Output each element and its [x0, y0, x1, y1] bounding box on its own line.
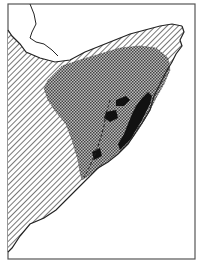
distribution-map — [0, 0, 198, 266]
